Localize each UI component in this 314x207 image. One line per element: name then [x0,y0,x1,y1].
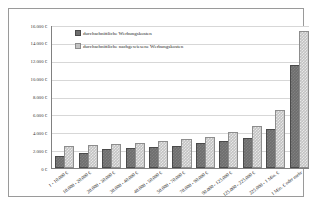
gridline [52,62,309,63]
x-axis-tick-labels: 1 - 10.000 €10.000 - 20.000 €20.000 - 30… [51,170,309,207]
y-axis-label: 16.000 € [9,24,47,29]
gridline [52,98,309,99]
y-axis-label: 12.000 € [9,59,47,64]
y-axis-tick-labels: 0 €2.000 €4.000 €6.000 €8.000 €10.000 €1… [9,9,49,207]
gridline [52,115,309,116]
gridline [52,26,309,27]
gridline [52,80,309,81]
legend-swatch-series-1 [75,30,81,36]
legend-item[interactable]: durchschnittliche nachgewiesene Werbungs… [75,43,183,49]
legend-label-series-1: durchschnittliche Werbungskosten [83,31,152,36]
legend-item[interactable]: durchschnittliche Werbungskosten [75,30,183,36]
bar-series-2[interactable] [299,31,309,168]
y-axis-label: 8.000 € [9,95,47,100]
bar-series-2[interactable] [275,110,285,168]
legend-label-series-2: durchschnittliche nachgewiesene Werbungs… [83,44,183,49]
y-axis-label: 6.000 € [9,113,47,118]
chart-legend: durchschnittliche Werbungskosten durchsc… [75,30,183,56]
legend-swatch-series-2 [75,43,81,49]
y-axis-label: 2.000 € [9,149,47,154]
y-axis-label: 4.000 € [9,131,47,136]
y-axis-label: 14.000 € [9,41,47,46]
y-axis-label: 0 € [9,167,47,172]
y-axis-label: 10.000 € [9,77,47,82]
chart-frame: 0 €2.000 €4.000 €6.000 €8.000 €10.000 €1… [8,8,304,197]
bar-series-2[interactable] [252,126,262,168]
